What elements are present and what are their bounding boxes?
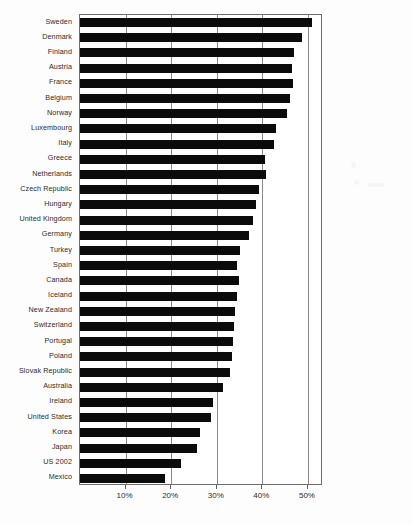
bar-row — [80, 79, 323, 88]
category-label: Greece — [48, 154, 72, 162]
bar — [80, 368, 230, 377]
bar — [80, 94, 290, 103]
bar — [80, 231, 249, 240]
category-label: Ireland — [49, 397, 72, 405]
bar-row — [80, 246, 323, 255]
bar-row — [80, 109, 323, 118]
category-label: Luxembourg — [31, 124, 72, 132]
bar — [80, 337, 233, 346]
bar — [80, 216, 253, 225]
category-label: Belgium — [45, 94, 72, 102]
axis-tick — [125, 485, 126, 489]
category-label: Norway — [47, 109, 72, 117]
bar-row — [80, 216, 323, 225]
plot-area — [79, 14, 322, 485]
bar-row — [80, 18, 323, 27]
bar — [80, 18, 312, 27]
category-label: Turkey — [50, 246, 72, 254]
bar — [80, 428, 200, 437]
bar-row — [80, 352, 323, 361]
bar-row — [80, 292, 323, 301]
bar — [80, 48, 294, 57]
bar-row — [80, 94, 323, 103]
bar — [80, 292, 237, 301]
bar — [80, 170, 266, 179]
category-label: Portugal — [44, 337, 72, 345]
bar-row — [80, 307, 323, 316]
axis-tick — [307, 485, 308, 489]
bar-row — [80, 64, 323, 73]
bar — [80, 155, 265, 164]
bar — [80, 185, 259, 194]
bar-row — [80, 33, 323, 42]
category-label: Iceland — [48, 291, 72, 299]
bar — [80, 261, 237, 270]
bar — [80, 109, 287, 118]
category-label: Austria — [49, 63, 72, 71]
category-label: Australia — [43, 382, 72, 390]
axis-tick — [261, 485, 262, 489]
scan-artifact — [368, 183, 384, 187]
bar-row — [80, 140, 323, 149]
category-label: Canada — [46, 276, 72, 284]
bar-row — [80, 261, 323, 270]
category-label: Germany — [42, 230, 72, 238]
category-label: Hungary — [44, 200, 72, 208]
value-axis: 10%20%30%40%50% — [79, 485, 322, 515]
scan-artifact — [354, 180, 359, 185]
category-label: Mexico — [49, 473, 72, 481]
bar — [80, 444, 197, 453]
bar-row — [80, 413, 323, 422]
bar-row — [80, 124, 323, 133]
category-label: Finland — [48, 48, 72, 56]
category-label: US 2002 — [43, 458, 72, 466]
bar-row — [80, 383, 323, 392]
bar — [80, 200, 256, 209]
bar-row — [80, 170, 323, 179]
category-label: France — [49, 78, 72, 86]
category-label: Denmark — [42, 33, 72, 41]
category-label: Poland — [49, 352, 72, 360]
bar-row — [80, 185, 323, 194]
category-label: New Zealand — [29, 306, 72, 314]
bar — [80, 413, 211, 422]
axis-tick-label: 20% — [162, 491, 178, 501]
bar — [80, 398, 213, 407]
bar — [80, 322, 234, 331]
bar — [80, 459, 181, 468]
axis-tick-label: 30% — [208, 491, 224, 501]
axis-tick-label: 10% — [117, 491, 133, 501]
bar-row — [80, 155, 323, 164]
category-label: Japan — [52, 443, 72, 451]
axis-tick — [170, 485, 171, 489]
category-label: United Kingdom — [19, 215, 72, 223]
bar-row — [80, 398, 323, 407]
bar-row — [80, 231, 323, 240]
category-label: Italy — [58, 139, 72, 147]
bar-row — [80, 459, 323, 468]
category-label: Switzerland — [34, 321, 72, 329]
bar — [80, 64, 292, 73]
bar — [80, 383, 223, 392]
bar — [80, 124, 276, 133]
bar-row — [80, 200, 323, 209]
bar-row — [80, 337, 323, 346]
axis-tick-label: 40% — [253, 491, 269, 501]
category-axis: SwedenDenmarkFinlandAustriaFranceBelgium… — [0, 14, 76, 485]
bar-row — [80, 368, 323, 377]
bar — [80, 140, 274, 149]
axis-tick — [216, 485, 217, 489]
bar-row — [80, 474, 323, 483]
bar — [80, 276, 239, 285]
bar-chart-figure: SwedenDenmarkFinlandAustriaFranceBelgium… — [0, 0, 412, 525]
bar — [80, 79, 293, 88]
bar — [80, 307, 235, 316]
category-label: United States — [28, 413, 72, 421]
category-label: Netherlands — [32, 170, 72, 178]
bar-row — [80, 428, 323, 437]
scan-artifact — [351, 162, 356, 168]
bar — [80, 474, 165, 483]
category-label: Korea — [52, 428, 72, 436]
bar-row — [80, 48, 323, 57]
axis-tick-label: 50% — [299, 491, 315, 501]
